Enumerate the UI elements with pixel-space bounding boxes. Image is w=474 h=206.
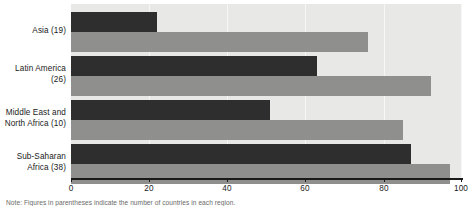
x-axis-tick-80 xyxy=(384,178,385,182)
x-axis-tick-100 xyxy=(461,178,462,182)
bar-asia-light[interactable] xyxy=(71,32,368,52)
bar-sub-saharan-africa-dark[interactable] xyxy=(71,144,411,164)
x-axis-tick-20 xyxy=(149,178,150,182)
gridline-100 xyxy=(461,4,462,178)
plot-area xyxy=(71,4,462,178)
category-label-middle-east-north-africa-line-0: Middle East and xyxy=(0,108,66,119)
x-axis-label-100: 100 xyxy=(446,184,474,193)
x-axis-label-40: 40 xyxy=(212,184,242,193)
bar-latin-america-light[interactable] xyxy=(71,76,431,96)
category-label-latin-america: Latin America (26) xyxy=(0,64,66,86)
bar-latin-america-dark[interactable] xyxy=(71,56,317,76)
category-label-asia-line-0: Asia (19) xyxy=(0,26,66,37)
x-axis-tick-40 xyxy=(227,178,228,182)
category-label-sub-saharan-africa-line-1: Africa (38) xyxy=(0,163,66,174)
category-label-latin-america-line-1: (26) xyxy=(0,75,66,86)
category-label-latin-america-line-0: Latin America xyxy=(0,64,66,75)
chart-caption: Note: Figures in parentheses indicate th… xyxy=(6,199,472,206)
category-label-sub-saharan-africa-line-0: Sub-Saharan xyxy=(0,152,66,163)
bar-sub-saharan-africa-light[interactable] xyxy=(71,164,450,184)
x-axis-tick-0 xyxy=(71,178,72,182)
category-label-middle-east-north-africa-line-1: North Africa (10) xyxy=(0,119,66,130)
horizontal-bar-chart: 0 20 40 60 80 100 Asia (19) Latin Americ… xyxy=(0,0,474,206)
x-axis-line xyxy=(71,178,463,180)
category-label-middle-east-north-africa: Middle East and North Africa (10) xyxy=(0,108,66,130)
bar-asia-dark[interactable] xyxy=(71,12,157,32)
x-axis-label-60: 60 xyxy=(290,184,320,193)
x-axis-label-80: 80 xyxy=(369,184,399,193)
x-axis-label-20: 20 xyxy=(134,184,164,193)
category-label-sub-saharan-africa: Sub-Saharan Africa (38) xyxy=(0,152,66,174)
x-axis-tick-60 xyxy=(305,178,306,182)
bar-middle-east-north-africa-dark[interactable] xyxy=(71,100,270,120)
category-label-asia: Asia (19) xyxy=(0,26,66,37)
x-axis-label-0: 0 xyxy=(56,184,86,193)
bar-middle-east-north-africa-light[interactable] xyxy=(71,120,403,140)
